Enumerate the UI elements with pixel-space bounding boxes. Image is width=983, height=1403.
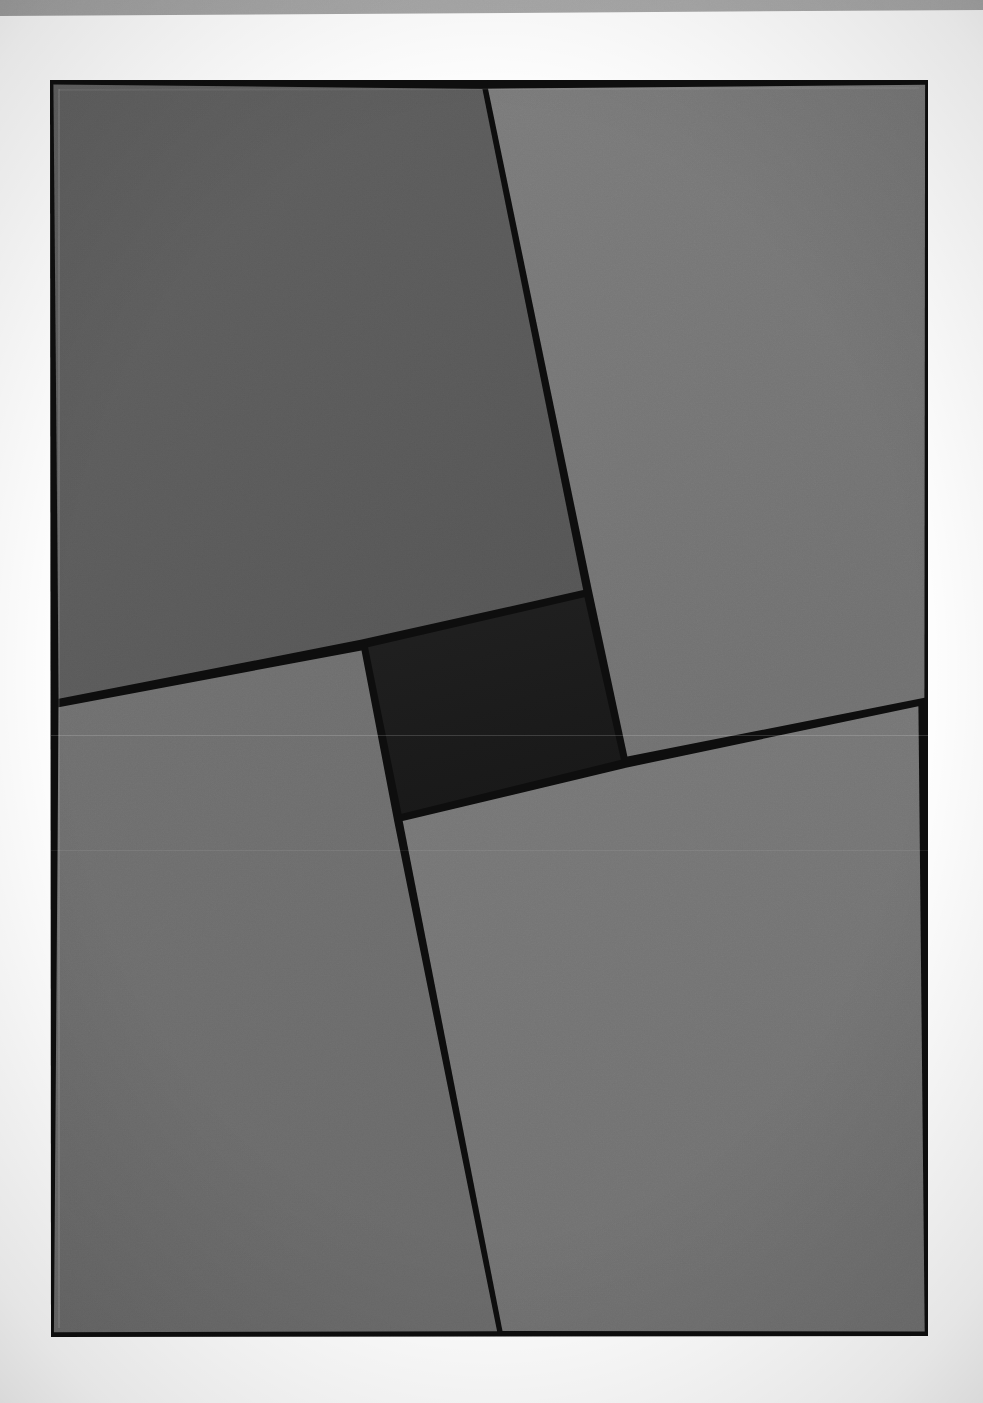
artwork-stage [0, 0, 983, 1403]
geometric-composition [0, 0, 983, 1403]
grain-layer [0, 0, 983, 1403]
